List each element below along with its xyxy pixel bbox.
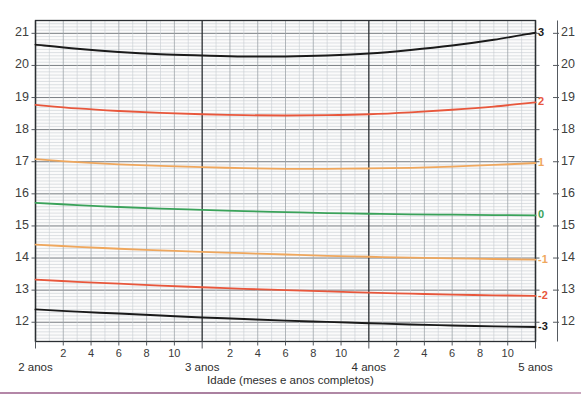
z-label-minus2: -2 [538, 290, 558, 301]
left-tick-17: 17 [3, 155, 29, 168]
month-tick-9: 10 [332, 348, 350, 359]
left-tick-21: 21 [3, 26, 29, 39]
month-tick-13: 8 [471, 348, 489, 359]
right-tick-13: 13 [561, 283, 581, 296]
month-tick-5: 2 [221, 348, 239, 359]
left-tick-20: 20 [3, 58, 29, 71]
month-tick-2: 6 [110, 348, 128, 359]
z-label-2: 2 [538, 96, 558, 107]
month-tick-11: 4 [415, 348, 433, 359]
footer-divider-rule [0, 392, 581, 394]
month-tick-3: 8 [138, 348, 156, 359]
month-tick-6: 4 [249, 348, 267, 359]
right-tick-20: 20 [561, 58, 581, 71]
left-tick-16: 16 [3, 187, 29, 200]
left-tick-18: 18 [3, 123, 29, 136]
month-tick-0: 2 [54, 348, 72, 359]
right-tick-16: 16 [561, 187, 581, 200]
z-label-3: 3 [538, 27, 558, 38]
z-label-0: 0 [538, 209, 558, 220]
left-tick-14: 14 [3, 251, 29, 264]
month-tick-8: 8 [304, 348, 322, 359]
right-tick-12: 12 [561, 315, 581, 328]
left-tick-15: 15 [3, 219, 29, 232]
month-tick-4: 10 [165, 348, 183, 359]
z-label-1: 1 [538, 157, 558, 168]
right-tick-18: 18 [561, 123, 581, 136]
left-tick-13: 13 [3, 283, 29, 296]
year-label-3: 5 anos [509, 362, 563, 374]
right-tick-17: 17 [561, 155, 581, 168]
chart-plot-area [0, 0, 581, 401]
year-label-0: 2 anos [9, 362, 63, 374]
year-label-2: 4 anos [342, 362, 396, 374]
year-label-1: 3 anos [175, 362, 229, 374]
month-tick-7: 6 [277, 348, 295, 359]
month-tick-1: 4 [82, 348, 100, 359]
right-tick-21: 21 [561, 26, 581, 39]
right-tick-15: 15 [561, 219, 581, 232]
left-tick-12: 12 [3, 315, 29, 328]
z-label-minus3: -3 [538, 321, 558, 332]
right-tick-19: 19 [561, 91, 581, 104]
right-tick-14: 14 [561, 251, 581, 264]
x-axis-title: Idade (meses e anos completos) [0, 374, 581, 386]
month-tick-12: 6 [443, 348, 461, 359]
z-label-minus1: -1 [538, 254, 558, 265]
left-tick-19: 19 [3, 91, 29, 104]
bmi-for-age-growth-chart: 21201918171615141312 2120191817161514131… [0, 0, 581, 401]
month-tick-14: 10 [499, 348, 517, 359]
month-tick-10: 2 [388, 348, 406, 359]
